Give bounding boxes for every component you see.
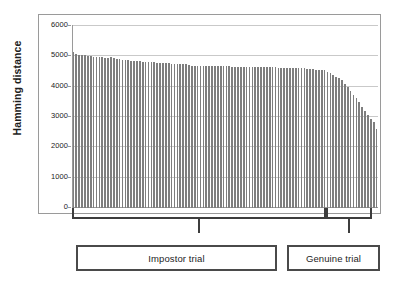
bar (136, 61, 138, 208)
bar (168, 63, 170, 208)
bar (84, 55, 86, 208)
bar (203, 66, 205, 208)
bar (165, 63, 167, 208)
y-tick-mark (68, 146, 71, 147)
bar (96, 57, 98, 208)
y-tick-label: 3000 (34, 112, 68, 120)
y-tick-label: 0 (34, 203, 68, 211)
bar (312, 69, 314, 208)
bar (101, 57, 103, 208)
bar (295, 68, 297, 208)
bar (341, 80, 343, 208)
bar (211, 66, 213, 208)
y-tick-mark (68, 55, 71, 56)
bar (191, 66, 193, 208)
bar (78, 55, 80, 208)
bar (252, 67, 254, 208)
bar (240, 67, 242, 208)
genuine-trial-label: Genuine trial (306, 253, 361, 264)
bar (194, 66, 196, 208)
bar (324, 70, 326, 208)
y-tick-label: 2000 (34, 142, 68, 150)
bar (119, 59, 121, 208)
bar (75, 54, 77, 208)
bar (130, 61, 132, 208)
bar (73, 52, 75, 208)
bar (335, 77, 337, 208)
bar (197, 66, 199, 208)
bar (318, 70, 320, 208)
y-tick-mark (68, 116, 71, 117)
genuine-trial-label-box: Genuine trial (287, 245, 380, 271)
bar (347, 87, 349, 208)
bar (90, 56, 92, 208)
bar (306, 69, 308, 208)
bar (228, 66, 230, 208)
bar (220, 66, 222, 208)
bar (356, 98, 358, 208)
y-tick-mark (68, 86, 71, 87)
bar (321, 70, 323, 208)
bar (151, 62, 153, 208)
bar (353, 95, 355, 208)
bar (200, 66, 202, 208)
bar (179, 64, 181, 208)
y-tick-label: 6000 (34, 21, 68, 29)
bar (87, 56, 89, 208)
bar (292, 68, 294, 208)
bar (373, 122, 375, 208)
bar (254, 67, 256, 208)
genuine-brace-leg (326, 208, 328, 217)
bar (350, 91, 352, 208)
bar (142, 62, 144, 209)
bar (286, 68, 288, 208)
bar (344, 84, 346, 208)
bar (217, 66, 219, 208)
bar (208, 66, 210, 208)
genuine-brace-stem (348, 217, 350, 233)
bar (226, 66, 228, 208)
bar (127, 60, 129, 208)
bar (162, 63, 164, 208)
bar (275, 67, 277, 208)
bar (361, 107, 363, 208)
bar (234, 67, 236, 208)
bar (110, 57, 112, 208)
bar (257, 67, 259, 208)
bar (283, 68, 285, 208)
bar (139, 61, 141, 208)
bar (177, 64, 179, 208)
impostor-trial-label-box: Impostor trial (76, 245, 277, 271)
bar (205, 66, 207, 208)
bar (122, 60, 124, 208)
bar (269, 67, 271, 208)
bar (278, 68, 280, 209)
bar (367, 115, 369, 208)
bar (263, 67, 265, 208)
bar (185, 64, 187, 208)
bar (364, 111, 366, 208)
impostor-brace-leg (72, 208, 74, 217)
bar (133, 61, 135, 208)
impostor-brace-stem (198, 217, 200, 233)
bar (81, 55, 83, 208)
bar (249, 67, 251, 208)
bar (315, 70, 317, 208)
y-tick-mark (68, 25, 71, 26)
bar (338, 78, 340, 208)
bar (376, 129, 378, 208)
bar (330, 73, 332, 208)
bar (188, 65, 190, 208)
y-tick-label: 4000 (34, 82, 68, 90)
y-axis-ticks: 0100020003000400050006000 (30, 0, 68, 214)
genuine-brace-leg (370, 208, 372, 217)
bar (237, 67, 239, 208)
bar (358, 102, 360, 208)
bar (231, 67, 233, 208)
bar (370, 119, 372, 208)
bar (280, 68, 282, 208)
bar (327, 72, 329, 209)
bar (153, 62, 155, 208)
bar (309, 69, 311, 208)
bar (99, 57, 101, 209)
